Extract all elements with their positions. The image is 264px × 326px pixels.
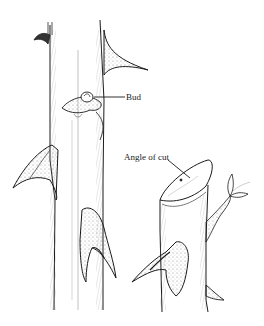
angle-of-cut-label: Angle of cut	[124, 153, 169, 162]
right-cut-stem	[160, 160, 212, 312]
bud-label: Bud	[126, 93, 141, 102]
side-shoot	[206, 174, 250, 242]
thorn-top-right	[104, 30, 148, 75]
bud-node	[62, 92, 125, 140]
illustration-drawing	[0, 0, 264, 326]
thorn-top-left	[34, 33, 50, 44]
rose-pruning-illustration: Bud Angle of cut	[0, 0, 264, 326]
thorn-right-lower-right	[206, 285, 224, 300]
angle-of-cut-leader-line	[168, 160, 190, 178]
leaf-bud-icon	[228, 174, 233, 196]
